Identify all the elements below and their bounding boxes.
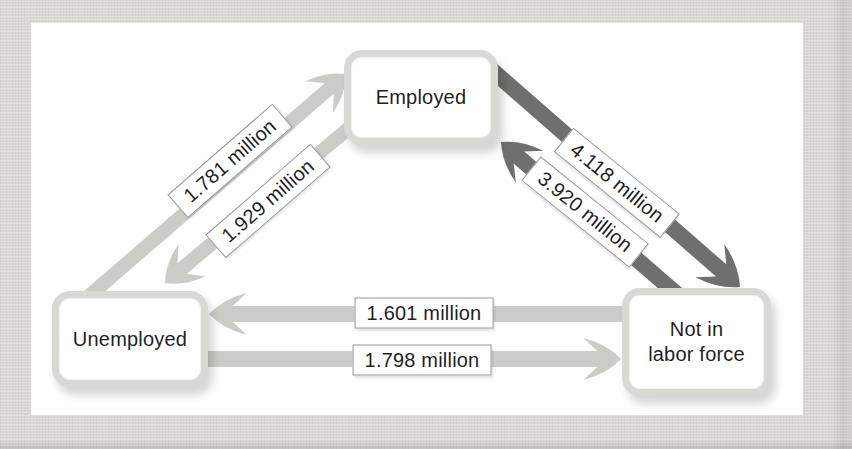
node-not-in-labor-force: Not in labor force — [622, 288, 771, 396]
flow-label-not-in-labor-force-to-unemployed: 1.601 million — [355, 298, 494, 329]
node-unemployed: Unemployed — [52, 291, 208, 387]
node-employed-label: Employed — [376, 85, 467, 110]
node-unemployed-label: Unemployed — [73, 327, 187, 352]
node-employed: Employed — [344, 50, 498, 145]
flow-label-unemployed-to-not-in-labor-force: 1.798 million — [353, 345, 492, 376]
textbook-page: 1.781 million 1.929 million 4.118 millio… — [0, 0, 852, 449]
node-not-in-labor-force-label: Not in labor force — [648, 317, 745, 367]
